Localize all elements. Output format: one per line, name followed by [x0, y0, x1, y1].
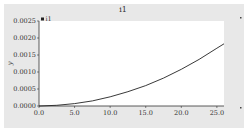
x-tick-label: 20.0: [174, 109, 188, 117]
y-tick-label: 0.0005: [13, 85, 36, 93]
x-tick-label: 0.0: [34, 109, 44, 117]
y-tick-label: 0.0020: [13, 34, 36, 42]
x-tick-label: 5.0: [69, 109, 79, 117]
plot-area: [39, 21, 224, 106]
y-tick-label: 0.0015: [13, 51, 36, 59]
legend-label: i1: [46, 15, 52, 23]
legend-marker-icon: [41, 18, 44, 21]
line-chart: 0.00000.00050.00100.00150.00200.00250.05…: [0, 0, 246, 134]
y-tick-label: 0.0025: [13, 17, 36, 25]
y-axis-label: y: [6, 61, 14, 66]
y-tick-label: 0.0010: [13, 68, 36, 76]
x-tick-label: 10.0: [103, 109, 117, 117]
x-tick-label: 25.0: [210, 109, 224, 117]
handle-bottom-icon: [240, 107, 242, 109]
x-tick-label: 15.0: [138, 109, 152, 117]
handle-top-icon: [240, 17, 242, 19]
y-tick-label: 0.0000: [13, 102, 36, 110]
